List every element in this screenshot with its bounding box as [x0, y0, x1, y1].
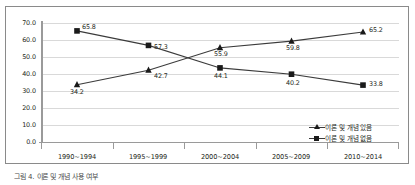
- y-axis-label-20: 20.0: [6, 105, 36, 112]
- data-label-55-9: 55.9: [214, 51, 228, 58]
- y-axis-label-0: 0.0: [6, 139, 36, 146]
- data-label-33-8: 33.8: [369, 81, 383, 88]
- data-point-marker: [289, 71, 295, 77]
- data-point-marker: [360, 82, 366, 88]
- data-label-65-2: 65.2: [369, 27, 383, 34]
- chart-figure: 70.0 60.0 50.0 40.0 30.0 20.0 10.0 0.0 1…: [0, 0, 415, 185]
- legend-label-has-theory: 이론 및 개념 있음: [325, 124, 372, 132]
- legend-label-no-theory: 이론 및 개념 없음: [325, 135, 372, 143]
- x-axis-label-1995-1999: 1995~1999: [113, 153, 183, 161]
- legend-item-no-theory[interactable]: 이론 및 개념 없음: [309, 133, 372, 144]
- triangle-marker-icon: [309, 122, 325, 133]
- x-axis-label-2010-2014: 2010~2014: [328, 153, 398, 161]
- y-axis-label-30: 30.0: [6, 88, 36, 95]
- data-label-57-3: 57.3: [154, 44, 168, 51]
- data-label-42-7: 42.7: [154, 73, 168, 80]
- data-label-59-8: 59.8: [286, 45, 300, 52]
- x-axis-label-2000-2004: 2000~2004: [185, 153, 255, 161]
- data-label-40-2: 40.2: [286, 80, 300, 87]
- data-point-marker: [360, 28, 366, 34]
- x-axis-label-2005-2009: 2005~2009: [256, 153, 326, 161]
- x-axis-label-1990-1994: 1990~1994: [42, 153, 112, 161]
- y-axis-label-60: 60.0: [6, 37, 36, 44]
- figure-caption: 그림 4. 이론 및 개념 사용 여부: [14, 173, 404, 184]
- legend-item-has-theory[interactable]: 이론 및 개념 있음: [309, 122, 372, 133]
- square-marker-icon: [309, 133, 325, 144]
- chart-legend: 이론 및 개념 있음 이론 및 개념 없음: [309, 120, 405, 146]
- chart-frame: 70.0 60.0 50.0 40.0 30.0 20.0 10.0 0.0 1…: [5, 6, 409, 164]
- y-axis-label-50: 50.0: [6, 54, 36, 61]
- y-axis-label-70: 70.0: [6, 20, 36, 27]
- data-label-65-8: 65.8: [82, 24, 96, 31]
- data-point-marker: [74, 28, 80, 34]
- data-point-marker: [146, 43, 152, 49]
- y-axis-label-10: 10.0: [6, 122, 36, 129]
- data-point-marker: [217, 65, 223, 71]
- data-label-44-1: 44.1: [214, 73, 228, 80]
- y-axis-label-40: 40.0: [6, 71, 36, 78]
- data-label-34-2: 34.2: [70, 89, 84, 96]
